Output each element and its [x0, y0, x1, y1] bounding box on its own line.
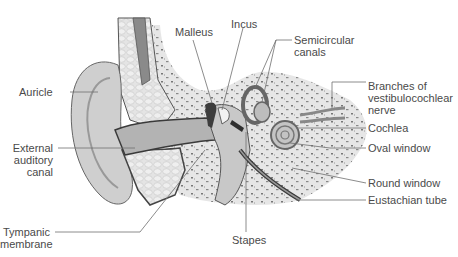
label-eustachian-tube: Eustachian tube — [368, 194, 447, 206]
label-oval-window: Oval window — [368, 142, 430, 154]
label-stapes: Stapes — [232, 234, 266, 246]
label-tympanic-membrane: Tympanic membrane — [0, 226, 50, 250]
label-malleus: Malleus — [175, 26, 213, 38]
label-external-auditory-canal: External auditory canal — [8, 142, 53, 178]
label-round-window: Round window — [368, 177, 440, 189]
semicircular-canal-2 — [254, 102, 270, 122]
label-auricle: Auricle — [19, 86, 53, 98]
label-branches-of-vestibulocochlear-nerve: Branches of vestibulocochlear nerve — [368, 80, 453, 116]
label-cochlea: Cochlea — [368, 122, 408, 134]
label-incus: Incus — [231, 18, 257, 30]
cochlea-outer — [271, 121, 299, 149]
label-semicircular-canals: Semicircular canals — [294, 34, 355, 58]
